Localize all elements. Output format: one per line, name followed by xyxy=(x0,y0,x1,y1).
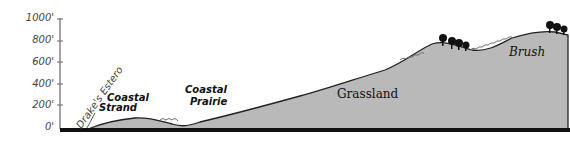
label-coastal-strand-2: Strand xyxy=(99,102,137,113)
label-coastal-prairie-2: Prairie xyxy=(190,96,227,107)
terrain-fill xyxy=(88,31,568,129)
label-grassland: Grassland xyxy=(337,87,398,101)
label-brush: Brush xyxy=(509,45,545,59)
label-coastal-prairie-1: Coastal xyxy=(185,84,227,95)
baseline xyxy=(60,128,570,132)
